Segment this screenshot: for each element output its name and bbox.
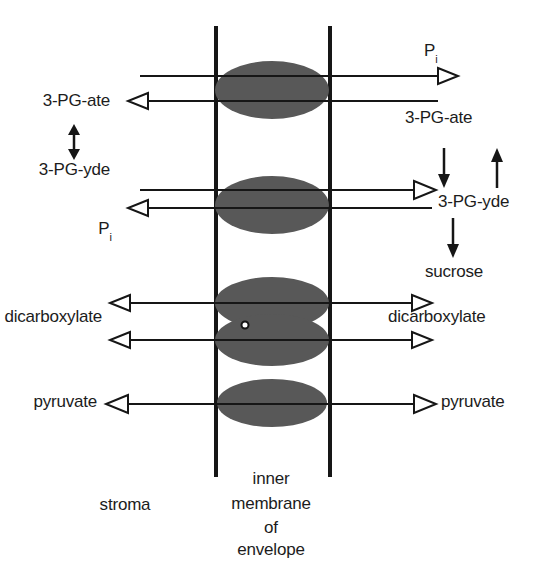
label-membrane-line4: envelope xyxy=(237,540,304,560)
label-membrane-line2: membrane xyxy=(231,494,311,514)
label-left-dicarboxylate: dicarboxylate xyxy=(4,307,102,327)
label-right-3pg-ate: 3-PG-ate xyxy=(405,108,472,128)
label-right-3pg-yde: 3-PG-yde xyxy=(438,192,509,212)
arrow-pga-pgald-interconversion xyxy=(62,124,86,160)
label-right-pi: Pi xyxy=(424,41,437,62)
label-right-sucrose: sucrose xyxy=(425,262,483,282)
label-membrane-line3: of xyxy=(264,518,278,538)
label-stroma: stroma xyxy=(100,495,151,515)
arrow-dicarboxylate-lower xyxy=(0,325,546,355)
caption-partial xyxy=(0,569,546,577)
label-right-dicarboxylate: dicarboxylate xyxy=(388,307,486,327)
label-left-3pg-yde: 3-PG-yde xyxy=(39,160,110,180)
arrow-pga-to-pgald-down xyxy=(434,148,454,188)
figure-canvas: 3-PG-ate 3-PG-yde Pi dicarboxylate pyruv… xyxy=(0,0,546,577)
label-right-pyruvate: pyruvate xyxy=(441,392,505,412)
arrow-pgald-to-sucrose-down xyxy=(443,218,463,258)
label-left-3pg-ate: 3-PG-ate xyxy=(43,91,110,111)
label-left-pyruvate: pyruvate xyxy=(33,392,97,412)
arrow-return-up xyxy=(487,148,507,188)
label-left-pi: Pi xyxy=(98,219,111,240)
label-membrane-line1: inner xyxy=(253,469,290,489)
